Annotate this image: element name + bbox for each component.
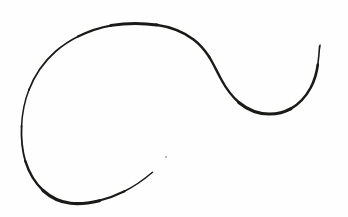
stroke-segment-spiral-left-mid [21,126,25,162]
stroke-segment-right-hook-rise [290,65,318,110]
stroke-segment-inner-hook [123,172,153,192]
stroke-segment-inner-hook-mid [98,191,125,201]
stroke-segment-upper-left-diagonal [29,36,79,90]
ink-speck [165,156,167,158]
drawing-canvas [0,0,348,217]
stroke-segment-right-hook-end [320,45,321,49]
flourish-drawing [0,0,348,217]
stroke-segment-right-trough [239,102,291,114]
stroke-segment-right-shoulder [156,25,210,58]
stroke-segment-top-apex [111,23,157,25]
stroke-segment-spiral-left-lower [25,161,43,191]
stroke-segment-s-bend [209,57,240,103]
stroke-segment-spiral-left-upper [22,89,30,127]
stroke-segment-apex-left [78,25,112,36]
stroke-segment-spiral-bottom [43,191,100,204]
